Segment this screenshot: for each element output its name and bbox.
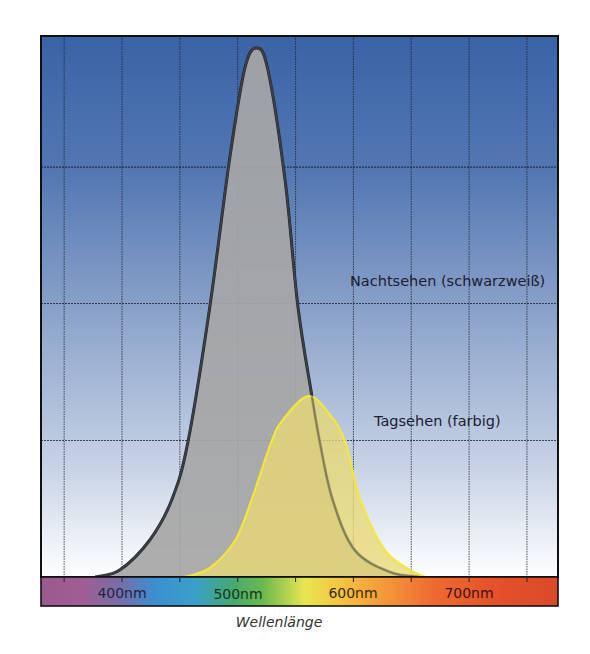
spectral-sensitivity-chart: Nachtsehen (schwarzweiß) Tagsehen (farbi… [0,0,590,654]
x-axis-label: Wellenlänge [236,614,323,630]
tick-label-600: 600nm [328,585,377,601]
tick-label-700: 700nm [444,585,493,601]
chart-svg: Nachtsehen (schwarzweiß) Tagsehen (farbi… [0,0,590,654]
tick-label-400: 400nm [97,585,146,601]
tick-label-500: 500nm [213,586,262,602]
night-vision-label: Nachtsehen (schwarzweiß) [350,273,545,289]
day-vision-label: Tagsehen (farbig) [373,413,501,429]
